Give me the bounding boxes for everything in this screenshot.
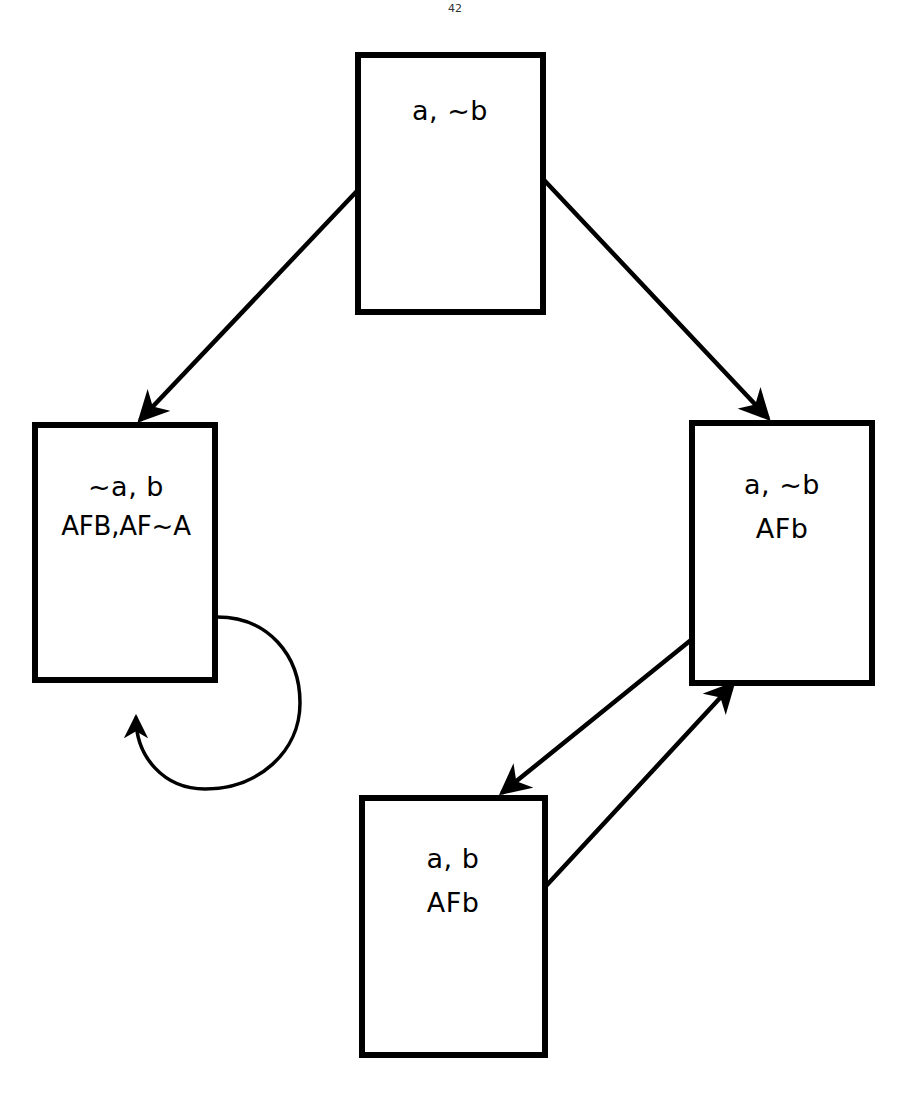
- diagram-svg: a, ~b ~a, b AFB,AF~A a, ~b AFb a, b AFb: [0, 0, 907, 1113]
- state-node-left-line-1: AFB,AF~A: [61, 511, 191, 541]
- state-node-top-box: [358, 55, 543, 312]
- state-node-bottom-box: [362, 798, 545, 1055]
- edge-bottom-to-right-line: [546, 685, 732, 886]
- state-node-right-line-0: a, ~b: [744, 469, 820, 500]
- state-node-top-line-0: a, ~b: [412, 95, 488, 126]
- edge-top-to-left-line: [141, 191, 357, 419]
- edge-top-to-left[interactable]: [141, 191, 357, 419]
- edge-right-to-bottom[interactable]: [503, 640, 691, 792]
- node-layer: a, ~b ~a, b AFB,AF~A a, ~b AFb a, b AFb: [35, 55, 872, 1055]
- edge-bottom-to-right[interactable]: [546, 685, 732, 886]
- edge-top-to-right-line: [544, 180, 767, 417]
- state-diagram-canvas: 42: [0, 0, 907, 1113]
- state-node-left[interactable]: ~a, b AFB,AF~A: [35, 425, 215, 680]
- state-node-right-box: [692, 423, 872, 683]
- edge-top-to-right[interactable]: [544, 180, 767, 417]
- edge-right-to-bottom-line: [503, 640, 691, 792]
- state-node-bottom-line-0: a, b: [427, 843, 480, 874]
- state-node-bottom[interactable]: a, b AFb: [362, 798, 545, 1055]
- state-node-left-line-0: ~a, b: [88, 471, 164, 502]
- state-node-right-line-1: AFb: [756, 513, 809, 544]
- state-node-right[interactable]: a, ~b AFb: [692, 423, 872, 683]
- state-node-bottom-line-1: AFb: [427, 887, 480, 918]
- state-node-left-box: [35, 425, 215, 680]
- state-node-top[interactable]: a, ~b: [358, 55, 543, 312]
